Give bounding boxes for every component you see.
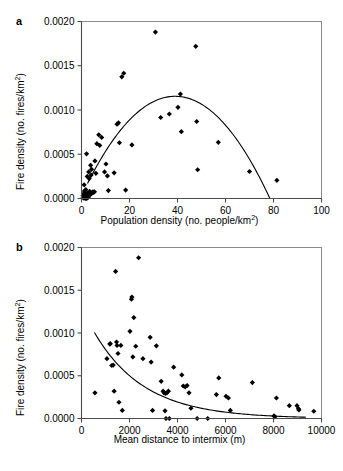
panel-b-y-axis-title-tail: )	[15, 299, 26, 302]
panel-a-plot: 0.00000.00050.00100.00150.0020 020406080…	[0, 0, 343, 215]
panel-a-x-axis-title-tail: )	[255, 215, 258, 226]
panel-a-y-axis-title-tail: )	[15, 73, 26, 76]
y-tick-label: 0.0005	[44, 370, 75, 381]
data-point	[129, 142, 134, 147]
panel-b-plot-frame	[82, 248, 322, 419]
data-point	[123, 187, 128, 192]
data-point	[158, 115, 163, 120]
data-point	[148, 335, 153, 340]
data-point	[175, 105, 180, 110]
data-point	[113, 269, 118, 274]
panel-a-x-ticks: 020406080100	[79, 199, 331, 216]
y-tick-label: 0.0010	[44, 328, 75, 339]
figure-container: a Fire density (no. fires/km2) 0.00000.0…	[0, 0, 343, 471]
data-point	[250, 380, 255, 385]
panel-a-y-ticks: 0.00000.00050.00100.00150.0020	[44, 16, 82, 204]
data-point	[159, 379, 164, 384]
data-point	[149, 359, 154, 364]
data-point	[102, 169, 107, 174]
data-point	[112, 389, 117, 394]
data-point	[167, 111, 172, 116]
data-point	[115, 351, 120, 356]
y-tick-label: 0.0000	[44, 413, 75, 424]
panel-b-fit-curve	[94, 333, 305, 418]
data-point	[140, 356, 145, 361]
panel-b-y-ticks: 0.00000.00050.00100.00150.0020	[44, 242, 82, 424]
data-point	[118, 343, 123, 348]
panel-b-label: b	[16, 241, 23, 253]
y-tick-label: 0.0020	[44, 242, 75, 253]
data-point	[186, 390, 191, 395]
data-point	[153, 30, 158, 35]
data-point	[106, 188, 111, 193]
panel-a-fit-curve	[88, 96, 270, 198]
caption-fragment	[0, 458, 343, 471]
data-point	[104, 356, 109, 361]
data-point	[179, 129, 184, 134]
data-point	[274, 178, 279, 183]
data-point	[247, 169, 252, 174]
panel-b: b Fire density (no. fires/km2) 0.00000.0…	[0, 226, 343, 462]
panel-a-plot-frame	[82, 22, 322, 199]
y-tick-label: 0.0005	[44, 149, 75, 160]
data-point	[130, 354, 135, 359]
panel-b-data-points	[92, 255, 316, 421]
data-point	[105, 173, 110, 178]
y-tick-label: 0.0015	[44, 60, 75, 71]
panel-a-x-axis-title: Population density (no. people/km2)	[8, 214, 343, 226]
data-point	[84, 151, 89, 156]
panel-b-y-axis-title: Fire density (no. fires/km2)	[14, 299, 26, 416]
panel-a-data-points	[80, 30, 279, 202]
data-point	[108, 341, 113, 346]
panel-b-x-axis-title: Mean distance to intermix (m)	[8, 434, 343, 445]
data-point	[154, 343, 159, 348]
data-point	[136, 255, 141, 260]
y-tick-label: 0.0000	[44, 193, 75, 204]
panel-b-y-axis-title-sup: 2	[14, 303, 21, 307]
panel-a-y-axis-title: Fire density (no. fires/km2)	[14, 73, 26, 190]
panel-a: a Fire density (no. fires/km2) 0.00000.0…	[0, 0, 343, 236]
data-point	[195, 167, 200, 172]
data-point	[88, 163, 93, 168]
y-tick-label: 0.0010	[44, 105, 75, 116]
y-tick-label: 0.0020	[44, 16, 75, 27]
data-point	[116, 400, 121, 405]
data-point	[311, 409, 316, 414]
panel-b-y-axis-title-base: Fire density (no. fires/km	[15, 307, 26, 416]
data-point	[193, 44, 198, 49]
data-point	[117, 140, 122, 145]
data-point	[194, 119, 199, 124]
data-point	[150, 408, 155, 413]
data-point	[120, 408, 125, 413]
y-tick-label: 0.0015	[44, 285, 75, 296]
panel-a-y-axis-title-sup: 2	[14, 77, 21, 81]
data-point	[133, 344, 138, 349]
data-point	[287, 403, 292, 408]
data-point	[131, 315, 136, 320]
panel-a-y-axis-title-base: Fire density (no. fires/km	[15, 81, 26, 190]
data-point	[127, 329, 132, 334]
data-point	[216, 140, 221, 145]
data-point	[171, 365, 176, 370]
data-point	[112, 170, 117, 175]
data-point	[92, 158, 97, 163]
data-point	[92, 390, 97, 395]
data-point	[179, 372, 184, 377]
data-point	[82, 182, 87, 187]
data-point	[274, 395, 279, 400]
data-point	[214, 392, 219, 397]
panel-b-x-ticks: 0200040006000800010000	[79, 419, 336, 436]
data-point	[162, 408, 167, 413]
panel-a-x-axis-title-base: Population density (no. people/km	[101, 215, 252, 226]
panel-b-plot: 0.00000.00050.00100.00150.0020 020004000…	[0, 226, 343, 441]
panel-a-label: a	[16, 15, 22, 27]
data-point	[103, 161, 108, 166]
data-point	[216, 375, 221, 380]
